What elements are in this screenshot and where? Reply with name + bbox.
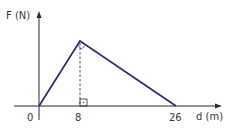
force-distance-chart: F (N) d (m) 0 8 26 [0,0,228,128]
right-angle-dot [83,102,84,103]
tick-label-0: 0 [27,112,33,123]
peak-angle-marker [78,45,85,49]
y-axis-arrow-icon [37,11,42,18]
x-axis-label: d (m) [196,111,223,122]
tick-label-8: 8 [75,112,81,123]
tick-label-26: 26 [169,112,182,123]
force-line [39,41,176,106]
y-axis-label: F (N) [6,10,30,21]
x-axis-arrow-icon [215,104,222,109]
